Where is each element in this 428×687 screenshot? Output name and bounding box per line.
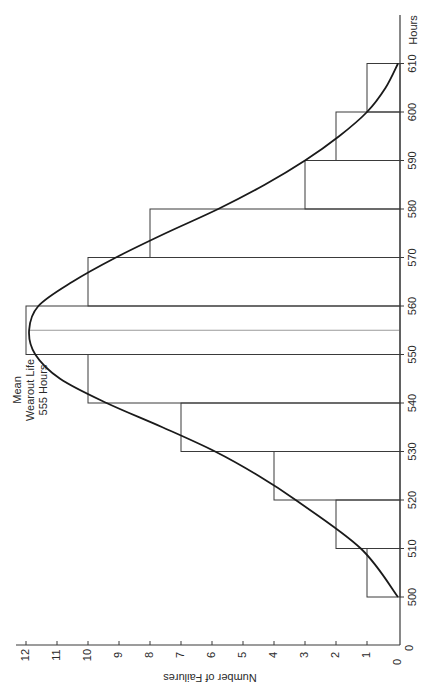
hours-tick-label: 520 <box>406 491 418 509</box>
hours-tick-label: 0 <box>403 645 415 651</box>
failures-tick-label: 10 <box>81 649 93 661</box>
failures-tick-label: 11 <box>50 649 62 660</box>
failures-tick-label: 2 <box>329 652 341 658</box>
hours-tick-label: 590 <box>406 151 418 169</box>
hours-tick-label: 500 <box>406 588 418 606</box>
histogram-bar <box>274 452 400 501</box>
histogram-bar <box>181 403 400 452</box>
annotation-line-3: 555 Hours <box>37 364 49 415</box>
hours-tick-label: 530 <box>406 442 418 460</box>
histogram-bar <box>150 209 400 258</box>
failures-axis-title: Number of Failures <box>163 672 257 684</box>
failures-tick-label: 0 <box>391 659 403 665</box>
wearout-histogram-chart: 0500510520530540550560570580590600610 Ho… <box>0 0 428 687</box>
failures-tick-label: 4 <box>267 652 279 658</box>
failures-tick-label: 9 <box>112 652 124 658</box>
histogram-bar <box>336 112 400 161</box>
hours-axis-ticks: 0500510520530540550560570580590600610 <box>400 54 418 651</box>
failures-tick-label: 7 <box>174 652 186 658</box>
annotation-line-2: Wearout Life <box>24 359 36 421</box>
failures-tick-label: 8 <box>143 652 155 658</box>
hours-tick-label: 560 <box>406 297 418 315</box>
failures-tick-label: 12 <box>19 649 31 661</box>
hours-tick-label: 580 <box>406 200 418 218</box>
hours-tick-label: 600 <box>406 103 418 121</box>
histogram-bar <box>88 355 400 404</box>
hours-tick-label: 510 <box>406 539 418 557</box>
hours-tick-label: 570 <box>406 248 418 266</box>
annotation-line-1: Mean <box>11 376 23 404</box>
histogram-bar <box>336 500 400 549</box>
failures-tick-label: 1 <box>360 652 372 658</box>
hours-tick-label: 550 <box>406 345 418 363</box>
hours-tick-label: 540 <box>406 394 418 412</box>
histogram-bar <box>88 258 400 307</box>
failures-tick-label: 3 <box>298 652 310 658</box>
hours-tick-label: 610 <box>406 54 418 72</box>
mean-annotation: Mean Wearout Life 555 Hours <box>11 359 49 421</box>
failures-tick-label: 5 <box>236 652 248 658</box>
histogram-bar <box>305 161 400 210</box>
failures-tick-label: 6 <box>205 652 217 658</box>
hours-axis-title: Hours <box>407 15 419 45</box>
histogram-bar <box>367 549 400 598</box>
